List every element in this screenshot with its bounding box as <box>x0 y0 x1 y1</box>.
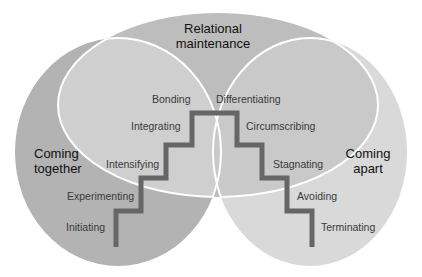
phase-coming-apart: Coming apart <box>343 147 393 177</box>
stage-initiating: Initiating <box>66 222 105 233</box>
stage-terminating: Terminating <box>321 222 375 233</box>
stage-avoiding: Avoiding <box>297 191 337 202</box>
phase-relational-maintenance: Relational maintenance <box>173 22 253 52</box>
phase-title-line1: Relational <box>173 22 253 37</box>
phase-title-line2: maintenance <box>173 37 253 52</box>
phase-coming-together: Coming together <box>34 147 82 177</box>
stage-integrating: Integrating <box>131 121 181 132</box>
stage-circumscribing: Circumscribing <box>246 121 315 132</box>
phase-title-line1: Coming <box>34 147 82 162</box>
phase-title-line2: together <box>34 162 82 177</box>
stage-intensifying: Intensifying <box>106 159 159 170</box>
stage-bonding: Bonding <box>152 94 191 105</box>
stage-stagnating: Stagnating <box>273 159 323 170</box>
phase-title-line1: Coming <box>343 147 393 162</box>
phase-title-line2: apart <box>343 162 393 177</box>
relational-stages-diagram: Relational maintenance Coming together C… <box>0 0 422 277</box>
stage-experimenting: Experimenting <box>67 191 134 202</box>
stage-differentiating: Differentiating <box>216 94 281 105</box>
